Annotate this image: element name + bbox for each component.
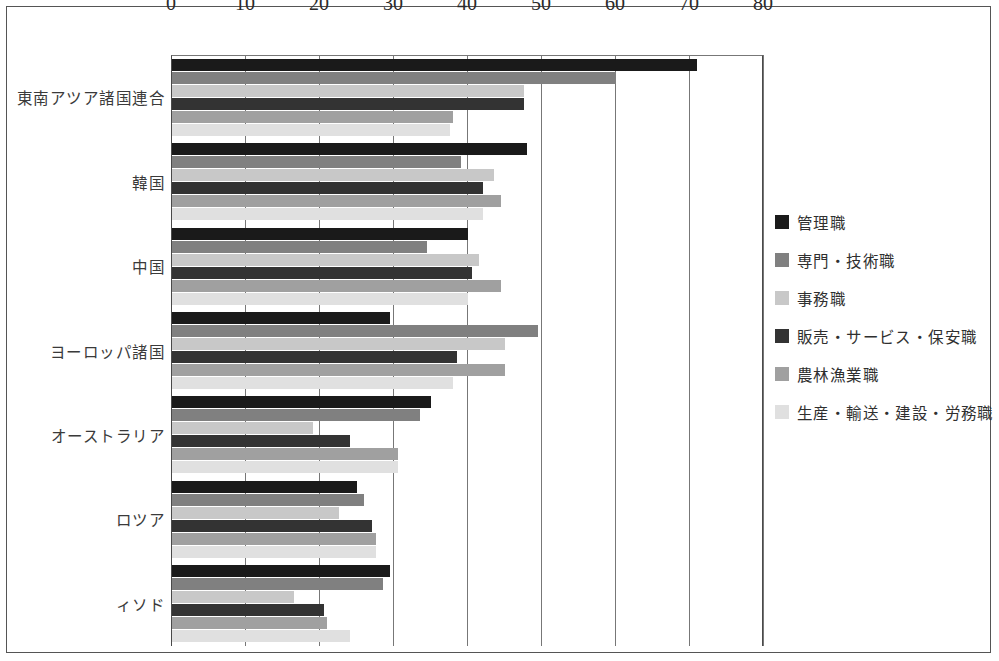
x-axis-tick-label: 80 <box>753 0 773 15</box>
bar <box>172 630 350 642</box>
chart-figure: 東南アツア諸国連合韓国中国ヨーロッパ諸国オーストラリアロツアィソド 管理職専門・… <box>6 6 991 653</box>
legend-swatch-icon <box>775 329 789 343</box>
bar <box>172 208 483 220</box>
x-axis-tick-label: 50 <box>531 0 551 15</box>
legend-item[interactable]: 専門・技術職 <box>775 241 987 279</box>
x-gridline <box>763 55 764 646</box>
y-axis-tick-label: ヨーロッパ諸国 <box>50 340 166 362</box>
bar <box>172 228 468 240</box>
y-axis-tick-label: 中国 <box>132 255 165 277</box>
bar <box>172 85 524 97</box>
bar <box>172 98 524 110</box>
bar <box>172 72 616 84</box>
legend-item-label: 管理職 <box>797 211 846 233</box>
bar <box>172 396 431 408</box>
legend-item[interactable]: 販売・サービス・保安職 <box>775 317 987 355</box>
bar <box>172 143 527 155</box>
x-axis-tick-label: 0 <box>166 0 176 15</box>
legend-swatch-icon <box>775 215 789 229</box>
bar <box>172 461 398 473</box>
plot-area <box>171 55 763 646</box>
bar <box>172 241 427 253</box>
legend-item[interactable]: 農林漁業職 <box>775 355 987 393</box>
bar <box>172 312 390 324</box>
bar <box>172 351 457 363</box>
y-axis-tick-label: ィソド <box>116 593 166 615</box>
bar <box>172 520 372 532</box>
bar <box>172 111 453 123</box>
x-axis-tick-label: 30 <box>383 0 403 15</box>
bar <box>172 533 376 545</box>
bar-chart: 東南アツア諸国連合韓国中国ヨーロッパ諸国オーストラリアロツアィソド 管理職専門・… <box>7 7 992 654</box>
bar <box>172 481 357 493</box>
x-gridline <box>689 55 690 646</box>
bar <box>172 59 697 71</box>
bar <box>172 409 420 421</box>
x-axis-tick-label: 40 <box>457 0 477 15</box>
y-axis-tick-label: オーストラリア <box>51 424 166 446</box>
bar <box>172 338 505 350</box>
legend-swatch-icon <box>775 291 789 305</box>
y-axis-tick-label: 韓国 <box>132 171 165 193</box>
bar <box>172 422 313 434</box>
legend-swatch-icon <box>775 367 789 381</box>
bar <box>172 448 398 460</box>
y-axis-tick-label: ロツア <box>116 508 166 530</box>
legend-swatch-icon <box>775 405 789 419</box>
legend-item-label: 販売・サービス・保安職 <box>797 325 977 347</box>
bar <box>172 156 461 168</box>
bar <box>172 195 501 207</box>
bar <box>172 617 327 629</box>
legend-item-label: 専門・技術職 <box>797 249 895 271</box>
bar <box>172 494 364 506</box>
bar <box>172 267 472 279</box>
y-axis-category-labels: 東南アツア諸国連合韓国中国ヨーロッパ諸国オーストラリアロツアィソド <box>7 7 165 654</box>
y-axis-tick-label: 東南アツア諸国連合 <box>17 86 166 108</box>
legend-item-label: 農林漁業職 <box>797 363 879 385</box>
bar <box>172 377 453 389</box>
bar <box>172 507 339 519</box>
x-axis-tick-label: 60 <box>605 0 625 15</box>
legend-swatch-icon <box>775 253 789 267</box>
bar <box>172 293 468 305</box>
chart-legend: 管理職専門・技術職事務職販売・サービス・保安職農林漁業職生産・輸送・建設・労務職 <box>775 203 987 431</box>
bar <box>172 124 450 136</box>
legend-item[interactable]: 事務職 <box>775 279 987 317</box>
bar <box>172 182 483 194</box>
bar <box>172 546 376 558</box>
legend-item-label: 生産・輸送・建設・労務職 <box>797 401 994 423</box>
legend-item[interactable]: 管理職 <box>775 203 987 241</box>
bar <box>172 435 350 447</box>
x-gridline <box>541 55 542 646</box>
legend-item-label: 事務職 <box>797 287 846 309</box>
bar <box>172 604 324 616</box>
bar <box>172 254 479 266</box>
x-axis-tick-label: 70 <box>679 0 699 15</box>
legend-item[interactable]: 生産・輸送・建設・労務職 <box>775 393 987 431</box>
bar <box>172 565 390 577</box>
bar <box>172 364 505 376</box>
bar <box>172 578 383 590</box>
x-axis-tick-label: 20 <box>309 0 329 15</box>
x-axis-tick-label: 10 <box>235 0 255 15</box>
x-gridline <box>615 55 616 646</box>
bar <box>172 280 501 292</box>
bar <box>172 325 538 337</box>
bar <box>172 591 294 603</box>
bar <box>172 169 494 181</box>
